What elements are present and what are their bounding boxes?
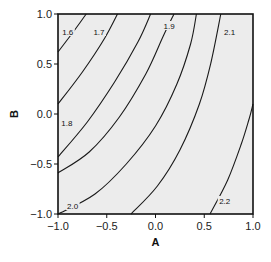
y-tick-label: 1.0 (37, 8, 52, 20)
plot-background (58, 14, 253, 214)
contour-label: 1.6 (62, 28, 74, 37)
y-tick-label: 0.0 (37, 108, 52, 120)
contour-label: 1.7 (93, 28, 105, 37)
y-tick-label: −1.0 (30, 208, 52, 220)
contour-label: 2.2 (219, 197, 231, 206)
contour-chart: 1.61.71.81.92.02.12.2 −1.0−0.50.00.51.0 … (0, 0, 271, 262)
y-tick-label: 0.5 (37, 58, 52, 70)
x-tick-label: 0.5 (197, 220, 212, 232)
x-axis: −1.0−0.50.00.51.0 (47, 214, 261, 232)
x-tick-label: 0.0 (148, 220, 163, 232)
contour-label: 2.1 (224, 28, 236, 37)
contour-label: 2.0 (67, 202, 79, 211)
y-tick-label: −0.5 (30, 158, 52, 170)
x-tick-label: 1.0 (245, 220, 260, 232)
y-axis-label: B (8, 110, 20, 118)
x-axis-label: A (152, 236, 160, 248)
y-axis: −1.0−0.50.00.51.0 (30, 8, 58, 220)
x-tick-label: −0.5 (96, 220, 118, 232)
contour-label: 1.9 (164, 22, 176, 31)
x-tick-label: −1.0 (47, 220, 69, 232)
contour-label: 1.8 (61, 119, 73, 128)
